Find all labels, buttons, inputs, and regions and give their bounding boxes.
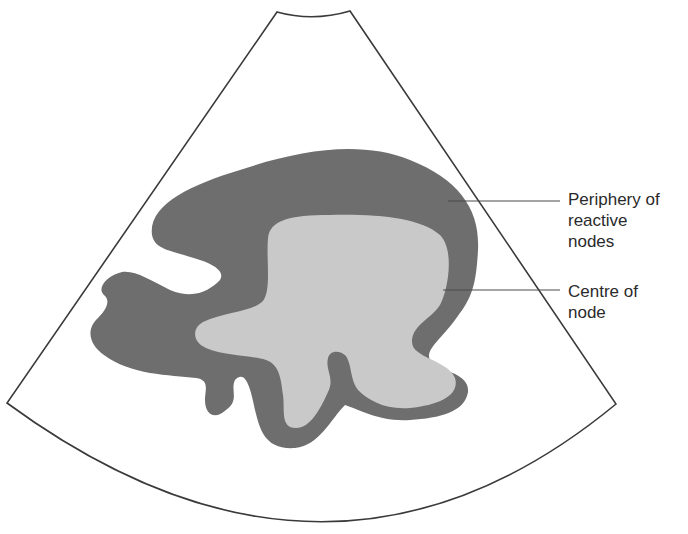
periphery-label-line2: reactive <box>568 210 660 231</box>
ultrasound-diagram <box>0 0 688 534</box>
centre-label: Centre of node <box>568 281 638 323</box>
centre-label-line2: node <box>568 302 638 323</box>
periphery-label-line3: nodes <box>568 231 660 252</box>
centre-label-line1: Centre of <box>568 281 638 302</box>
periphery-label-line1: Periphery of <box>568 189 660 210</box>
periphery-label: Periphery of reactive nodes <box>568 189 660 252</box>
